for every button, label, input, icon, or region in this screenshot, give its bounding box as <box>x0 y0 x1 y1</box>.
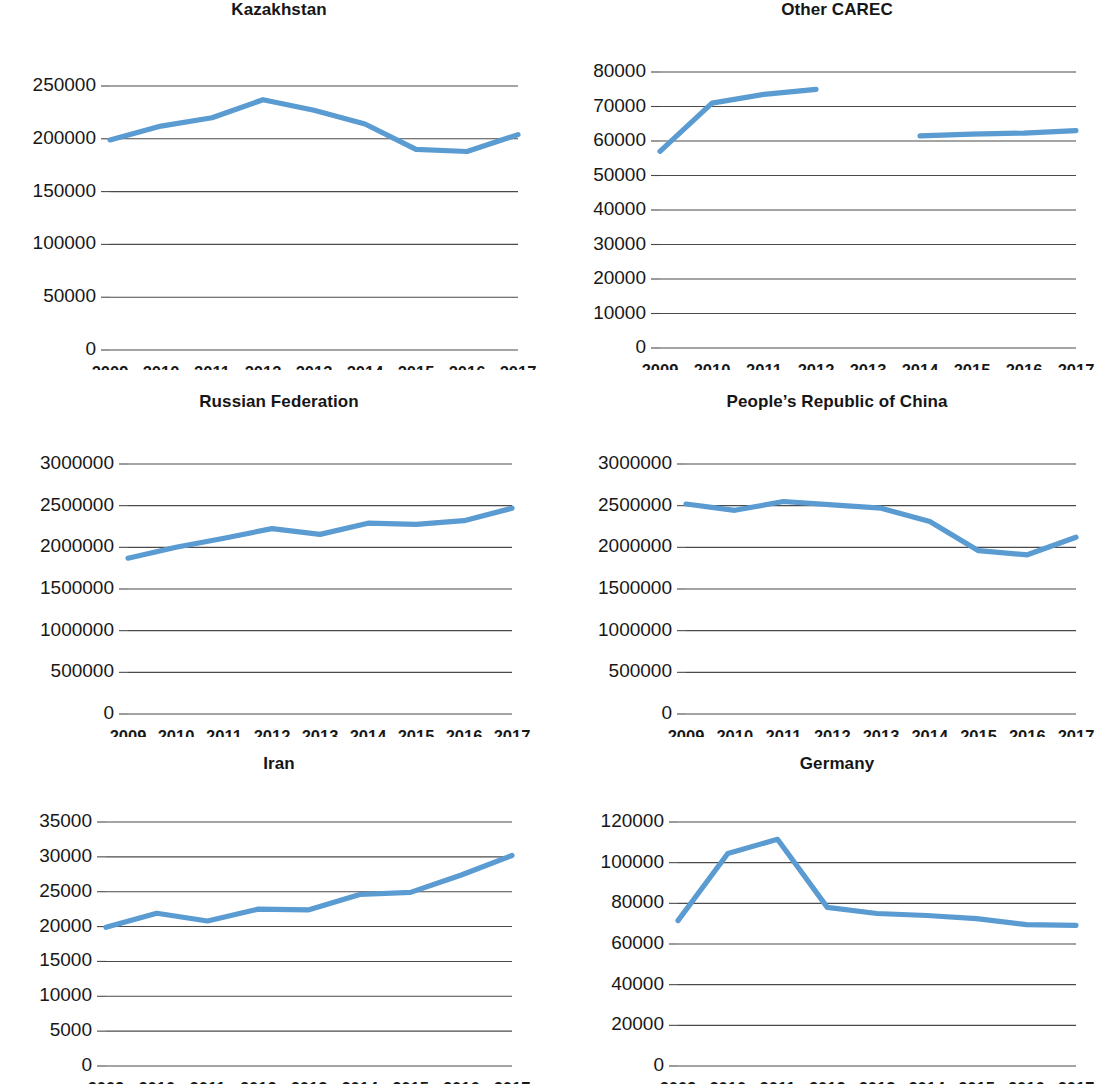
x-axis-tick-label: 2009 <box>668 727 705 737</box>
x-axis-tick-label: 2013 <box>296 363 333 370</box>
x-axis-tick-label: 2015 <box>954 361 991 370</box>
chart-svg-germany: 0200004000060000800001000001200002009201… <box>558 774 1116 1084</box>
y-axis-tick-label: 80000 <box>611 891 664 912</box>
x-axis-tick-label: 2015 <box>958 1079 995 1084</box>
series-line-kazakhstan <box>110 100 518 152</box>
chart-title-iran: Iran <box>0 754 558 774</box>
x-axis-tick-label: 2009 <box>660 1079 697 1084</box>
x-axis-tick-label: 2013 <box>859 1079 896 1084</box>
y-axis-tick-label: 0 <box>653 1054 664 1075</box>
x-axis-tick-label: 2014 <box>341 1079 379 1084</box>
y-axis-tick-label: 3000000 <box>40 452 114 473</box>
x-axis-tick-label: 2014 <box>350 727 388 737</box>
x-axis-tick-label: 2012 <box>798 361 835 370</box>
chart-svg-peoples-republic-of-china: 0500000100000015000002000000250000030000… <box>558 412 1116 737</box>
y-axis-tick-label: 0 <box>661 702 672 723</box>
series-line-germany <box>678 839 1076 925</box>
y-axis-tick-label: 2000000 <box>40 535 114 556</box>
x-axis-tick-label: 2015 <box>392 1079 429 1084</box>
x-axis-tick-label: 2014 <box>347 363 385 370</box>
x-axis-tick-label: 2017 <box>1058 1079 1095 1084</box>
y-axis-tick-label: 150000 <box>33 180 96 201</box>
panel-kazakhstan: Kazakhstan 05000010000015000020000025000… <box>0 0 558 392</box>
x-axis-tick-label: 2010 <box>143 363 180 370</box>
y-axis-tick-label: 0 <box>635 336 646 357</box>
chart-grid: Kazakhstan 05000010000015000020000025000… <box>0 0 1116 1092</box>
y-axis-tick-label: 100000 <box>33 232 96 253</box>
chart-title-peoples-republic-of-china: People’s Republic of China <box>558 392 1116 412</box>
panel-russian-federation: Russian Federation 050000010000001500000… <box>0 392 558 754</box>
y-axis-tick-label: 0 <box>103 702 114 723</box>
x-axis-tick-label: 2009 <box>642 361 679 370</box>
y-axis-tick-label: 0 <box>81 1054 92 1075</box>
x-axis-tick-label: 2010 <box>709 1079 746 1084</box>
y-axis-tick-label: 2500000 <box>598 494 672 515</box>
x-axis-tick-label: 2012 <box>240 1079 277 1084</box>
y-axis-tick-label: 1000000 <box>598 619 672 640</box>
y-axis-tick-label: 0 <box>85 338 96 359</box>
y-axis-tick-label: 120000 <box>601 810 664 831</box>
chart-title-other-carec: Other CAREC <box>558 0 1116 20</box>
y-axis-tick-label: 15000 <box>39 949 92 970</box>
x-axis-tick-label: 2014 <box>902 361 940 370</box>
panel-peoples-republic-of-china: People’s Republic of China 0500000100000… <box>558 392 1116 754</box>
x-axis-tick-label: 2017 <box>1058 361 1095 370</box>
y-axis-tick-label: 10000 <box>39 984 92 1005</box>
y-axis-tick-label: 70000 <box>593 95 646 116</box>
plot-iran: 0500010000150002000025000300003500020092… <box>0 774 558 1084</box>
x-axis-tick-label: 2009 <box>88 1079 125 1084</box>
x-axis-tick-label: 2012 <box>254 727 291 737</box>
x-axis-tick-label: 2010 <box>716 727 753 737</box>
y-axis-tick-label: 5000 <box>50 1019 92 1040</box>
x-axis-tick-label: 2010 <box>138 1079 175 1084</box>
y-axis-tick-label: 25000 <box>39 880 92 901</box>
y-axis-tick-label: 80000 <box>593 60 646 81</box>
x-axis-tick-label: 2012 <box>814 727 851 737</box>
series-line-other-carec <box>660 89 816 151</box>
x-axis-tick-label: 2013 <box>302 727 339 737</box>
x-axis-tick-label: 2016 <box>443 1079 480 1084</box>
y-axis-tick-label: 30000 <box>593 233 646 254</box>
series-line-other-carec <box>920 131 1076 136</box>
x-axis-tick-label: 2012 <box>809 1079 846 1084</box>
y-axis-tick-label: 500000 <box>51 660 114 681</box>
y-axis-tick-label: 40000 <box>593 198 646 219</box>
y-axis-tick-label: 20000 <box>593 267 646 288</box>
x-axis-tick-label: 2015 <box>960 727 997 737</box>
y-axis-tick-label: 2500000 <box>40 494 114 515</box>
y-axis-tick-label: 250000 <box>33 74 96 95</box>
series-line-russian-federation <box>128 508 512 558</box>
x-axis-tick-label: 2010 <box>158 727 195 737</box>
y-axis-tick-label: 200000 <box>33 127 96 148</box>
chart-svg-kazakhstan: 0500001000001500002000002500002009201020… <box>0 20 558 370</box>
x-axis-tick-label: 2013 <box>291 1079 328 1084</box>
chart-title-russian-federation: Russian Federation <box>0 392 558 412</box>
x-axis-tick-label: 2017 <box>494 1079 531 1084</box>
x-axis-tick-label: 2011 <box>766 727 802 737</box>
x-axis-tick-label: 2016 <box>1006 361 1043 370</box>
chart-svg-russian-federation: 0500000100000015000002000000250000030000… <box>0 412 558 737</box>
y-axis-tick-label: 2000000 <box>598 535 672 556</box>
y-axis-tick-label: 1500000 <box>598 577 672 598</box>
y-axis-tick-label: 60000 <box>593 129 646 150</box>
x-axis-tick-label: 2011 <box>206 727 242 737</box>
x-axis-tick-label: 2009 <box>110 727 147 737</box>
x-axis-tick-label: 2015 <box>398 363 435 370</box>
plot-germany: 0200004000060000800001000001200002009201… <box>558 774 1116 1084</box>
y-axis-tick-label: 1000000 <box>40 619 114 640</box>
y-axis-tick-label: 3000000 <box>598 452 672 473</box>
x-axis-tick-label: 2013 <box>850 361 887 370</box>
x-axis-tick-label: 2016 <box>446 727 483 737</box>
y-axis-tick-label: 100000 <box>601 851 664 872</box>
x-axis-tick-label: 2011 <box>190 1079 226 1084</box>
x-axis-tick-label: 2017 <box>500 363 537 370</box>
panel-other-carec: Other CAREC 0100002000030000400005000060… <box>558 0 1116 392</box>
x-axis-tick-label: 2016 <box>1008 1079 1045 1084</box>
x-axis-tick-label: 2016 <box>449 363 486 370</box>
panel-germany: Germany 02000040000600008000010000012000… <box>558 754 1116 1092</box>
y-axis-tick-label: 20000 <box>39 915 92 936</box>
y-axis-tick-label: 35000 <box>39 810 92 831</box>
chart-svg-iran: 0500010000150002000025000300003500020092… <box>0 774 558 1084</box>
chart-svg-other-carec: 0100002000030000400005000060000700008000… <box>558 20 1116 370</box>
plot-kazakhstan: 0500001000001500002000002500002009201020… <box>0 20 558 370</box>
